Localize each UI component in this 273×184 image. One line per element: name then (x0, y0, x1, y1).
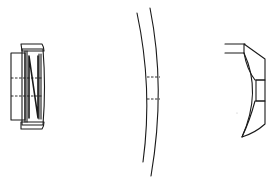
middle-outer-arc (150, 8, 158, 176)
middle-component-curved-shell (137, 8, 160, 176)
left-hatched-ring-top (21, 44, 44, 51)
diagram-canvas (0, 0, 273, 184)
right-component-hatched-section (225, 44, 265, 137)
right-hatched-lower (242, 101, 265, 137)
right-central-window (256, 80, 265, 101)
left-component-cap-assembly (11, 44, 45, 129)
technical-drawing (0, 0, 273, 184)
left-outer-body (11, 53, 25, 120)
middle-inner-arc (137, 13, 147, 162)
left-coil-spring (29, 56, 38, 118)
right-speck (236, 112, 237, 113)
